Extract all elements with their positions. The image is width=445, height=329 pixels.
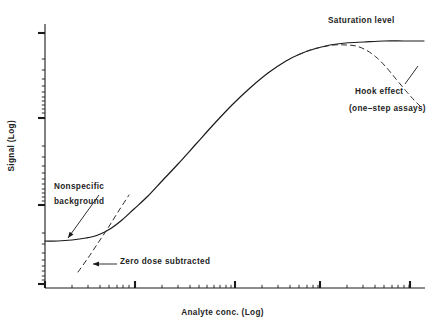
- annotation-hook-effect: Hook effect: [355, 86, 403, 98]
- plot-canvas: [0, 0, 445, 329]
- zero-dose-subtracted-arrow: [93, 262, 117, 267]
- series-line-0: [45, 41, 424, 241]
- series-line-1: [298, 45, 421, 107]
- annotation-nonspecific-background-line2: background: [54, 196, 104, 208]
- chart-figure: Saturation level Hook effect (one–step a…: [0, 0, 445, 329]
- axes: [45, 24, 425, 288]
- x-axis-label: Analyte conc. (Log): [0, 307, 445, 319]
- data-series: [45, 41, 424, 272]
- annotation-hook-effect-subtitle: (one–step assays): [349, 103, 426, 115]
- y-axis-label: Signal (Log): [6, 110, 18, 182]
- hook-effect-pointer: [405, 66, 418, 84]
- annotation-zero-dose-subtracted: Zero dose subtracted: [120, 256, 210, 268]
- annotation-nonspecific-background-line1: Nonspecific: [54, 181, 104, 193]
- annotation-saturation-level: Saturation level: [328, 15, 395, 27]
